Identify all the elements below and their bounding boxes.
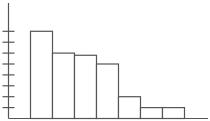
bar-7 bbox=[163, 108, 185, 119]
bar-5 bbox=[119, 97, 141, 119]
bars-group bbox=[31, 31, 185, 118]
histogram-chart bbox=[0, 0, 210, 121]
bar-1 bbox=[31, 31, 53, 118]
bar-2 bbox=[53, 53, 75, 118]
bar-3 bbox=[75, 55, 97, 118]
chart-canvas bbox=[0, 0, 210, 121]
bar-4 bbox=[97, 64, 119, 119]
bar-6 bbox=[141, 108, 163, 119]
